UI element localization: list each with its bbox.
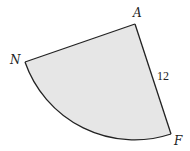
sector-diagram: A N F 12 [0,0,190,151]
sector-shape [25,24,171,140]
point-label-N: N [9,53,21,67]
radius-length-label: 12 [157,69,169,83]
point-label-F: F [173,134,183,148]
point-label-A: A [132,6,142,20]
